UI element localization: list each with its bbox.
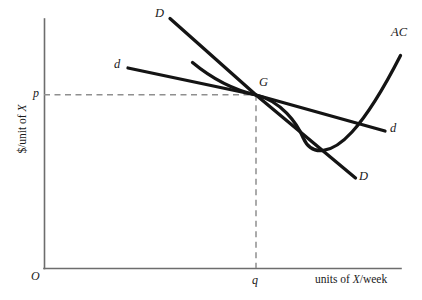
x-axis-label-prefix: units of [315, 273, 353, 285]
reference-lines-group [44, 95, 256, 268]
plot-canvas [0, 0, 422, 300]
y-axis-label-prefix: $/unit of [16, 111, 28, 153]
price-tick-label-p: p [33, 87, 39, 99]
demand-steep-label-bottom: D [359, 170, 368, 183]
x-axis-label-suffix: /week [360, 273, 387, 285]
x-axis-label-variable: X [353, 273, 360, 285]
quantity-tick-label-q: q [252, 274, 258, 286]
demand-flat-label-left: d [114, 58, 120, 71]
demand-steep-label-top: D [155, 7, 164, 20]
economics-diagram-figure: D D d d AC G p q O $/unit of X units of … [0, 0, 422, 300]
y-axis-label-variable: X [16, 104, 28, 111]
x-axis-label: units of X/week [315, 274, 387, 286]
average-cost-label: AC [391, 26, 407, 39]
average-cost-curve [193, 56, 401, 151]
demand-flat-label-right: d [390, 122, 396, 135]
y-axis-label: $/unit of X [12, 84, 30, 174]
origin-label-o: O [31, 270, 40, 282]
equilibrium-point-label-g: G [259, 76, 268, 89]
axes-group [44, 19, 401, 269]
caption-remnant [44, 291, 294, 300]
